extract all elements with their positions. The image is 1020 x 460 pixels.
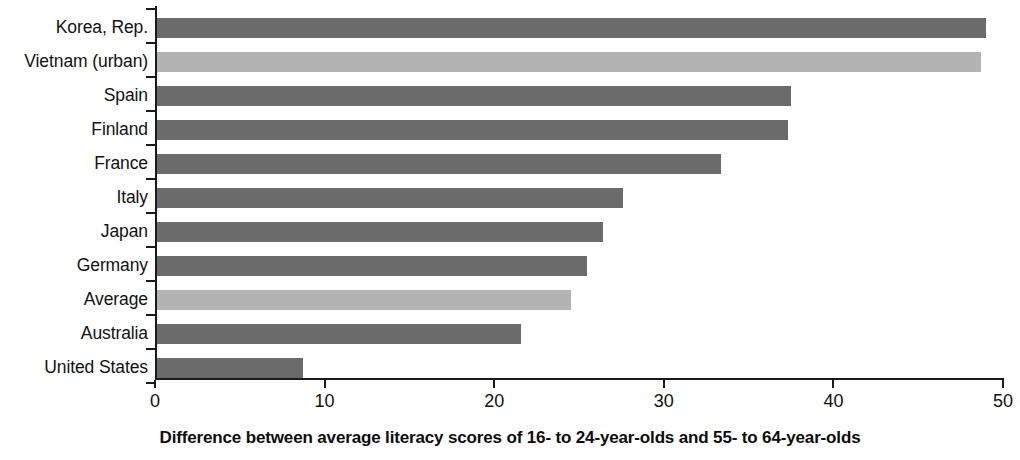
x-axis-line xyxy=(155,378,1004,380)
category-axis-labels: Korea, Rep.Vietnam (urban)SpainFinlandFr… xyxy=(0,0,148,380)
y-axis-tick xyxy=(146,110,155,112)
y-axis-tick xyxy=(146,178,155,180)
x-axis-title: Difference between average literacy scor… xyxy=(0,428,1020,448)
x-axis-tick-label: 40 xyxy=(811,391,855,412)
x-axis-tick xyxy=(832,380,834,388)
bar-vietnam-urban xyxy=(155,52,981,72)
bar-japan xyxy=(155,222,603,242)
bar-france xyxy=(155,154,721,174)
category-label: Spain xyxy=(0,85,148,105)
x-axis-tick xyxy=(1002,380,1004,388)
x-axis-tick xyxy=(663,380,665,388)
x-axis-tick-label: 20 xyxy=(472,391,516,412)
y-axis-tick xyxy=(146,246,155,248)
x-axis-tick-label: 0 xyxy=(133,391,177,412)
y-axis-tick xyxy=(146,8,155,10)
x-axis-tick-label: 10 xyxy=(303,391,347,412)
bar-germany xyxy=(155,256,587,276)
plot-area xyxy=(155,0,1020,380)
bar-average xyxy=(155,290,571,310)
bar-finland xyxy=(155,120,788,140)
x-axis-tick xyxy=(493,380,495,388)
category-label: Germany xyxy=(0,255,148,275)
category-label: Japan xyxy=(0,221,148,241)
bar-chart: Korea, Rep.Vietnam (urban)SpainFinlandFr… xyxy=(0,0,1020,460)
category-label: United States xyxy=(0,357,148,377)
bar-australia xyxy=(155,324,521,344)
y-axis-line xyxy=(155,6,157,380)
category-label: Italy xyxy=(0,187,148,207)
x-axis-tick-label: 30 xyxy=(642,391,686,412)
category-label: Finland xyxy=(0,119,148,139)
category-label: Vietnam (urban) xyxy=(0,51,148,71)
y-axis-tick xyxy=(146,76,155,78)
y-axis-tick xyxy=(146,212,155,214)
bar-korea-rep xyxy=(155,18,986,38)
category-label: Australia xyxy=(0,323,148,343)
bar-italy xyxy=(155,188,623,208)
y-axis-tick xyxy=(146,348,155,350)
y-axis-tick xyxy=(146,144,155,146)
category-label: Korea, Rep. xyxy=(0,17,148,37)
x-axis-tick-label: 50 xyxy=(981,391,1020,412)
y-axis-tick xyxy=(146,42,155,44)
category-label: Average xyxy=(0,289,148,309)
category-label: France xyxy=(0,153,148,173)
x-axis-tick xyxy=(154,380,156,388)
bar-united-states xyxy=(155,358,303,378)
bar-spain xyxy=(155,86,791,106)
y-axis-tick xyxy=(146,280,155,282)
y-axis-tick xyxy=(146,314,155,316)
x-axis-tick xyxy=(324,380,326,388)
